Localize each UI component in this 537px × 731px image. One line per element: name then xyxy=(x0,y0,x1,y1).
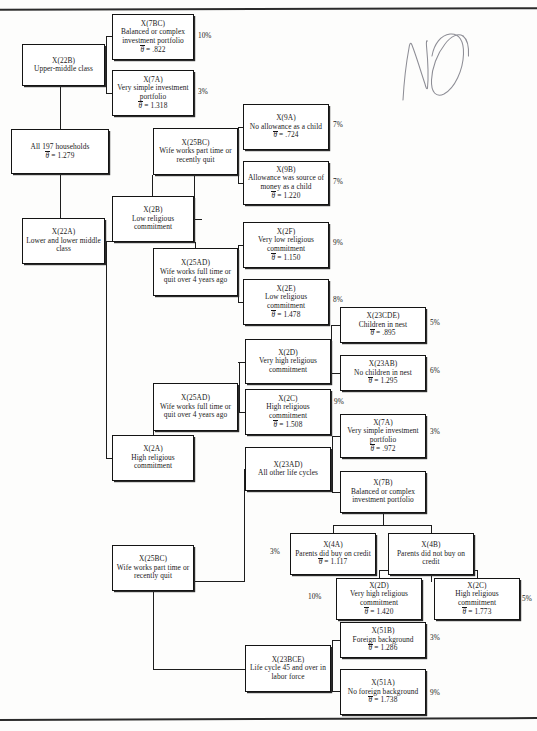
tree-node-n51a: X(51A)No foreign backgroundθ = 1.738 xyxy=(340,669,426,715)
node-label: Balanced or complex investment portfolio xyxy=(343,488,423,505)
theta-bar-symbol: θ xyxy=(140,46,144,54)
connector-line xyxy=(194,581,245,582)
node-mean-value: θ = 1.420 xyxy=(365,608,394,616)
tree-node-n2d_1: X(2D)Very high religious commitment xyxy=(245,339,331,384)
theta-bar-symbol: θ xyxy=(370,329,374,337)
connector-line xyxy=(238,245,239,302)
connector-line xyxy=(239,362,240,412)
node-label: Lower and lower middle class xyxy=(25,237,102,254)
percent-label-n23ab: 6% xyxy=(430,366,440,375)
tree-node-n25bc_1: X(25BC)Wife works part time or recently … xyxy=(153,128,238,175)
theta-bar-symbol: θ xyxy=(369,377,373,385)
node-label: Upper-middle class xyxy=(34,65,93,73)
node-label: Low religious commitment xyxy=(246,293,326,310)
percent-label-n2c_1: 9% xyxy=(334,397,344,406)
node-label: Wife works part time or recently quit xyxy=(156,147,235,164)
connector-line xyxy=(194,219,202,220)
node-label: Very simple investment portfolio xyxy=(115,84,191,101)
connector-line xyxy=(238,127,239,184)
tree-node-n4a: X(4A)Parents did buy on creditθ = 1.117 xyxy=(290,533,376,575)
connector-line xyxy=(332,436,333,492)
tree-node-n7a_top: X(7A)Very simple investment portfolioθ =… xyxy=(112,70,194,116)
node-mean-value: θ = 1.738 xyxy=(369,696,398,704)
node-mean-value: θ = 1.150 xyxy=(272,254,301,262)
theta-bar-symbol: θ xyxy=(319,558,323,566)
percent-label-n7bc: 10% xyxy=(198,31,211,40)
percent-label-n51a: 9% xyxy=(430,688,440,697)
tree-node-n23ab: X(23AB)No children in nestθ = 1.295 xyxy=(340,355,426,391)
tree-node-n51b: X(51B)Foreign backgroundθ = 1.286 xyxy=(340,622,426,658)
node-mean-value: θ = 1.478 xyxy=(272,311,301,319)
tree-node-n4b: X(4B)Parents did not buy on credit xyxy=(388,533,474,575)
tree-node-n23bce: X(23BCE)Life cycle 45 and over in labor … xyxy=(245,645,331,692)
connector-line xyxy=(60,86,61,129)
tree-node-n2d_2: X(2D)Very high religious commitmentθ = 1… xyxy=(336,578,422,620)
node-mean-value: θ = 1.286 xyxy=(369,644,398,652)
node-label: Low religious commitment xyxy=(115,215,191,232)
theta-bar-symbol: θ xyxy=(365,608,369,616)
node-label: All 197 households xyxy=(31,143,90,151)
tree-node-n7bc: X(7BC)Balanced or complex investment por… xyxy=(112,14,194,60)
tree-diagram-page: All 197 householdsθ = 1.279X(22B)Upper-m… xyxy=(0,0,537,731)
percent-label-n9b: 7% xyxy=(333,177,343,186)
node-label: Wife works part time or recently quit xyxy=(115,564,191,581)
node-mean-value: θ = 1.117 xyxy=(319,558,348,566)
node-mean-value: θ = 1.773 xyxy=(463,608,492,616)
node-mean-value: θ = 1.220 xyxy=(272,192,301,200)
theta-bar-symbol: θ xyxy=(272,311,276,319)
page-top-rule xyxy=(0,7,537,11)
node-label: Balanced or complex investment portfolio xyxy=(115,28,191,45)
percent-label-n23cde: 5% xyxy=(430,318,440,327)
theta-bar-symbol: θ xyxy=(139,102,143,110)
node-mean-value: θ = .895 xyxy=(370,329,395,337)
tree-node-n2a: X(2A)High religious commitment xyxy=(112,435,194,481)
handwritten-no-annotation xyxy=(393,22,503,104)
node-mean-value: θ = .724 xyxy=(273,131,298,139)
connector-line xyxy=(332,640,333,692)
theta-bar-symbol: θ xyxy=(369,696,373,704)
percent-label-n51b: 3% xyxy=(430,633,440,642)
node-mean-value: θ = 1.279 xyxy=(46,152,75,160)
tree-node-n2c_1: X(2C)High religious commitmentθ = 1.508 xyxy=(245,389,331,435)
theta-bar-symbol: θ xyxy=(463,608,467,616)
node-mean-value: θ = .822 xyxy=(140,46,165,54)
tree-node-n25ad_2: X(25AD)Wife works full time or quit over… xyxy=(153,383,238,431)
node-mean-value: θ = 1.295 xyxy=(369,377,398,385)
theta-bar-symbol: θ xyxy=(272,254,276,262)
tree-node-n23ad: X(23AD)All other life cycles xyxy=(245,447,331,491)
node-label: Very low religious commitment xyxy=(246,236,326,253)
tree-node-n25bc_2: X(25BC)Wife works part time or recently … xyxy=(112,545,194,591)
percent-label-n4a: 3% xyxy=(270,547,280,556)
node-label: Parents did not buy on credit xyxy=(391,550,471,567)
page-bottom-rule xyxy=(0,717,537,721)
connector-line xyxy=(431,575,432,582)
connector-line xyxy=(331,325,332,373)
percent-label-n9a: 7% xyxy=(333,120,343,129)
connector-line xyxy=(153,591,154,669)
connector-line xyxy=(383,513,384,525)
node-label: High religious commitment xyxy=(437,590,517,607)
percent-label-n2c_2: 5% xyxy=(522,594,532,603)
theta-bar-symbol: θ xyxy=(273,131,277,139)
tree-node-n7a_mid: X(7A)Very simple investment portfolioθ =… xyxy=(340,414,426,458)
theta-bar-symbol: θ xyxy=(46,152,50,160)
tree-node-n2b: X(2B)Low religious commitment xyxy=(112,196,194,242)
tree-node-n22a: X(22A)Lower and lower middle class xyxy=(22,218,105,264)
node-label: Very simple investment portfolio xyxy=(343,427,423,444)
node-mean-value: θ = 1.508 xyxy=(274,421,303,429)
theta-bar-symbol: θ xyxy=(370,445,374,453)
node-mean-value: θ = 1.318 xyxy=(139,102,168,110)
tree-node-n23cde: X(23CDE)Children in nestθ = .895 xyxy=(340,307,426,343)
tree-node-n25ad_1: X(25AD)Wife works full time or quit over… xyxy=(153,248,238,296)
tree-node-n9a: X(9A)No allowance as a childθ = .724 xyxy=(243,104,329,150)
node-label: Very high religious commitment xyxy=(248,357,328,374)
tree-node-n2e: X(2E)Low religious commitmentθ = 1.478 xyxy=(243,279,329,325)
percent-label-n7a_mid: 3% xyxy=(430,427,440,436)
tree-node-n7b: X(7B)Balanced or complex investment port… xyxy=(340,471,426,513)
node-label: Wife works full time or quit over 4 year… xyxy=(156,403,235,420)
node-label: Life cycle 45 and over in labor force xyxy=(248,664,328,681)
node-mean-value: θ = .972 xyxy=(370,445,395,453)
connector-line xyxy=(153,669,245,670)
percent-label-n2d_2: 10% xyxy=(308,592,321,601)
tree-node-root: All 197 householdsθ = 1.279 xyxy=(11,129,109,174)
